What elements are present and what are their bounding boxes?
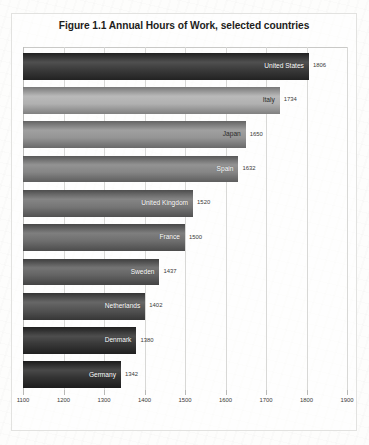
tick-mark-1700 <box>266 390 267 395</box>
x-tick-label: 1300 <box>97 397 110 403</box>
bar-category-label: Germany <box>89 372 121 379</box>
x-tick-label: 1800 <box>300 397 313 403</box>
bar[interactable]: Japan <box>23 121 246 148</box>
chart-frame: Figure 1.1 Annual Hours of Work, selecte… <box>11 13 357 431</box>
x-tick-label: 1100 <box>17 397 30 403</box>
bar-series: United States1806Italy1734Japan1650Spain… <box>23 49 347 390</box>
bar-category-label: Denmark <box>105 337 137 344</box>
tick-mark-1100 <box>23 390 24 395</box>
bar-value-label: 1632 <box>242 166 255 172</box>
bar-category-label: France <box>159 234 185 241</box>
bar-value-label: 1402 <box>149 303 162 309</box>
bar-value-label: 1380 <box>140 338 153 344</box>
tick-mark-1200 <box>64 390 65 395</box>
bar[interactable]: Italy <box>23 87 280 114</box>
bar-row: United States1806 <box>23 53 347 80</box>
chart-title: Figure 1.1 Annual Hours of Work, selecte… <box>12 20 356 31</box>
bar[interactable]: Germany <box>23 361 121 388</box>
bar-value-label: 1342 <box>125 372 138 378</box>
bar-row: Japan1650 <box>23 121 347 148</box>
bar-row: United Kingdom1520 <box>23 190 347 217</box>
bar-category-label: Italy <box>263 97 280 104</box>
bar-row: Denmark1380 <box>23 327 347 354</box>
bar-row: Sweden1437 <box>23 259 347 286</box>
tick-mark-1800 <box>307 390 308 395</box>
bar-value-label: 1734 <box>284 97 297 103</box>
bar-category-label: Netherlands <box>105 303 146 310</box>
bar-category-label: Japan <box>223 131 246 138</box>
bar[interactable]: United States <box>23 53 309 80</box>
bar-row: Spain1632 <box>23 156 347 183</box>
bar[interactable]: Spain <box>23 156 238 183</box>
x-tick-label: 1500 <box>178 397 191 403</box>
bar[interactable]: Sweden <box>23 259 159 286</box>
bar[interactable]: Netherlands <box>23 293 145 320</box>
bar-category-label: Spain <box>217 166 239 173</box>
x-tick-label: 1900 <box>340 397 353 403</box>
tick-mark-1500 <box>185 390 186 395</box>
bar-row: France1500 <box>23 224 347 251</box>
bar[interactable]: United Kingdom <box>23 190 193 217</box>
x-tick-label: 1700 <box>259 397 272 403</box>
bar-row: Germany1342 <box>23 361 347 388</box>
bar-value-label: 1650 <box>250 132 263 138</box>
bar[interactable]: Denmark <box>23 327 136 354</box>
bar-value-label: 1520 <box>197 200 210 206</box>
gridline-1900 <box>347 47 348 390</box>
x-tick-label: 1600 <box>219 397 232 403</box>
bar-row: Netherlands1402 <box>23 293 347 320</box>
bar-row: Italy1734 <box>23 87 347 114</box>
bar-category-label: Sweden <box>131 269 160 276</box>
x-tick-label: 1200 <box>57 397 70 403</box>
tick-mark-1300 <box>104 390 105 395</box>
x-axis: 110012001300140015001600170018001900 <box>23 390 347 411</box>
bar-value-label: 1500 <box>189 235 202 241</box>
bar[interactable]: France <box>23 224 185 251</box>
bar-category-label: United Kingdom <box>141 200 193 207</box>
plot-area: United States1806Italy1734Japan1650Spain… <box>23 47 347 411</box>
tick-mark-1900 <box>347 390 348 395</box>
tick-mark-1600 <box>226 390 227 395</box>
bar-value-label: 1806 <box>313 63 326 69</box>
x-tick-label: 1400 <box>138 397 151 403</box>
bar-value-label: 1437 <box>163 269 176 275</box>
bar-category-label: United States <box>264 63 309 70</box>
tick-mark-1400 <box>145 390 146 395</box>
